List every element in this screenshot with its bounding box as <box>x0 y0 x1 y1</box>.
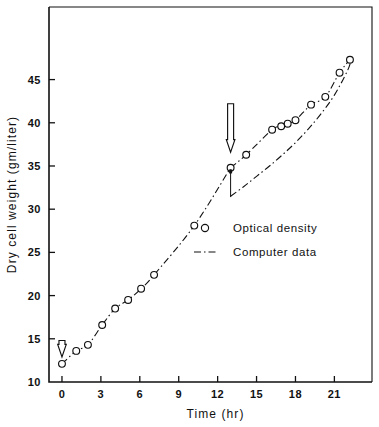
y-tick-label: 15 <box>28 333 41 345</box>
data-point-optical-density <box>85 341 92 348</box>
data-point-optical-density <box>347 56 354 63</box>
x-tick-label: 21 <box>328 388 341 400</box>
legend-marker-open-circle <box>201 224 208 231</box>
data-point-optical-density <box>336 69 343 76</box>
x-axis-title: Time (hr) <box>186 407 244 421</box>
step-change-marker-cap <box>229 169 232 173</box>
data-point-optical-density <box>322 93 329 100</box>
optical-density-trend-curve <box>231 60 350 168</box>
data-point-optical-density <box>278 123 285 130</box>
y-tick-label: 35 <box>28 160 41 172</box>
y-tick-label: 45 <box>28 74 41 86</box>
data-point-optical-density <box>99 322 106 329</box>
x-tick-label: 12 <box>211 388 224 400</box>
plot-axis-lines <box>49 7 372 382</box>
computer-data-curve-early <box>62 168 231 364</box>
data-point-optical-density <box>292 117 299 124</box>
y-tick-label: 10 <box>28 376 41 388</box>
x-tick-label: 3 <box>98 388 105 400</box>
y-tick-label: 30 <box>28 203 41 215</box>
plot-frame-top-right <box>49 7 372 382</box>
y-tick-label: 25 <box>28 246 41 258</box>
data-point-optical-density <box>269 126 276 133</box>
x-tick-label: 18 <box>289 388 302 400</box>
x-tick-label: 15 <box>250 388 263 400</box>
x-tick-label: 9 <box>175 388 182 400</box>
data-point-optical-density <box>73 347 80 354</box>
data-point-optical-density <box>138 285 145 292</box>
computer-data-curve-late <box>231 60 352 197</box>
x-tick-label: 6 <box>136 388 143 400</box>
chart-figure: { "figure": { "background_color": "#ffff… <box>0 0 379 427</box>
chart-canvas: 1015202530354045036912151821Time (hr)Dry… <box>0 0 379 427</box>
data-point-optical-density <box>112 305 119 312</box>
data-point-optical-density <box>151 271 158 278</box>
legend-label-computer-data: Computer data <box>233 246 317 258</box>
y-tick-label: 20 <box>28 290 41 302</box>
legend-label-optical-density: Optical density <box>233 222 317 234</box>
y-axis-title: Dry cell weight (gm/liter) <box>5 116 19 273</box>
induction-arrow-feed-icon <box>226 104 235 152</box>
data-point-optical-density <box>284 120 291 127</box>
data-point-optical-density <box>191 222 198 229</box>
induction-arrow-start-icon <box>58 341 67 357</box>
x-tick-label: 0 <box>59 388 66 400</box>
data-point-optical-density <box>125 297 132 304</box>
data-point-optical-density <box>308 101 315 108</box>
y-tick-label: 40 <box>28 117 41 129</box>
data-point-optical-density <box>59 360 66 367</box>
data-point-optical-density <box>243 151 250 158</box>
